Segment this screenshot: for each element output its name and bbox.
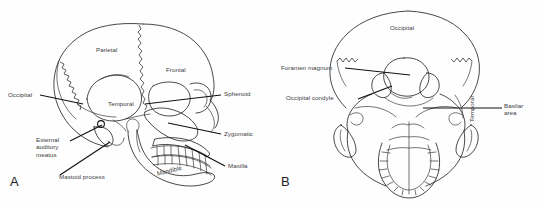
label-parietal: Parietal [96,46,117,53]
petrous-ridge-left [355,107,396,118]
occipital-condyle-left [372,73,391,98]
temporal-bone [87,75,142,121]
leader-mastoid [60,142,110,175]
occipital-margin-right [463,61,472,86]
skull-base-right [440,94,465,131]
label-external-auditory-meatus: External auditory meatus [36,136,59,158]
occiput-outline-right [408,11,479,107]
leader-foramen-magnum [345,68,410,75]
label-zygomatic: Zygomatic [224,130,253,137]
panel-letter-a: A [10,174,19,189]
lateral-process-right [456,125,478,157]
zygomatic-bone [144,108,198,141]
label-occipital-condyle: Occipital condyle [286,94,334,101]
label-maxilla: Maxilla [228,162,248,169]
occipital-margin-left [337,61,346,86]
panel-letter-b: B [281,174,290,189]
panel-b-drawing [330,11,502,198]
cranial-vault-outline [54,23,143,147]
frontal-outline [143,24,214,100]
label-temporal-b: Temporal [468,96,475,122]
lambdoid-suture-left-b [337,58,358,62]
mastoid-notch [108,138,124,145]
lateral-process-right-inner [467,130,472,151]
base-detail-right [449,113,462,125]
label-occipital-b: Occipital [390,24,414,31]
lambdoid-suture-right-b [451,58,472,62]
leader-occipital [40,95,83,104]
label-sphenoid: Sphenoid [224,90,251,97]
label-basilar-area: Basilar area [504,102,523,117]
label-frontal: Frontal [166,66,186,73]
label-mastoid-process: Mastoid process [59,173,105,180]
anatomical-figure: A Parietal Frontal Temporal Occipital Sp… [0,0,544,209]
label-foramen-magnum: Foramen magnum [281,64,332,71]
leader-sphenoid [145,95,221,104]
label-occipital: Occipital [8,91,32,98]
midface-stroke-1 [392,124,424,128]
basilar-area-outline [385,98,433,106]
lateral-process-left-inner [340,130,345,151]
coronal-suture [138,25,147,110]
zygomatic-arch [126,114,150,119]
label-temporal: Temporal [108,100,134,107]
base-detail-left [350,113,363,125]
mandible-condyle [127,119,139,131]
occipital-condyle-right [420,73,439,98]
petrous-strokes [113,120,126,131]
foramen-magnum [384,58,429,96]
lateral-process-left [334,125,356,157]
nasal-inner-edge [206,106,214,132]
skull-base-left [347,94,372,131]
